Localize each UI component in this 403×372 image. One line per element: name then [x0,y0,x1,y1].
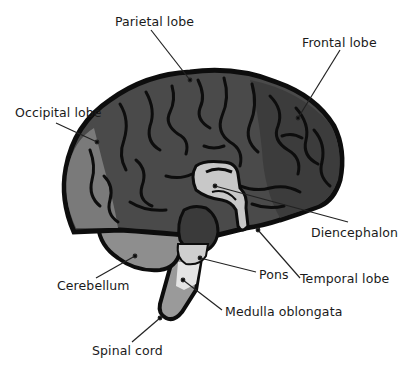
brain-diagram: Parietal lobe Frontal lobe Occipital lob… [0,0,403,372]
label-cerebellum: Cerebellum [57,279,130,293]
label-temporal-lobe: Temporal lobe [300,272,389,286]
pons-shape [178,244,208,264]
label-spinal-cord: Spinal cord [92,344,163,358]
label-medulla-oblongata: Medulla oblongata [225,305,342,319]
label-diencephalon: Diencephalon [311,226,398,240]
label-parietal-lobe: Parietal lobe [115,15,194,29]
brain-illustration [0,0,403,372]
label-occipital-lobe: Occipital lobe [15,106,102,120]
label-frontal-lobe: Frontal lobe [302,36,377,50]
label-pons: Pons [259,268,289,282]
